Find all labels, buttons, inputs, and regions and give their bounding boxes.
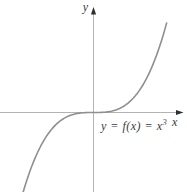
equation-text: y = f(x) = x bbox=[101, 119, 163, 133]
cubic-curve bbox=[23, 23, 166, 192]
equation-exponent: 3 bbox=[163, 117, 168, 127]
x-axis-arrow-icon bbox=[176, 110, 184, 115]
plot-canvas bbox=[0, 0, 187, 192]
y-axis-arrow-icon bbox=[91, 7, 96, 15]
equation-label: y = f(x) = x3 bbox=[101, 120, 167, 133]
x-axis-label: x bbox=[172, 116, 177, 129]
cubic-function-figure: y x y = f(x) = x3 bbox=[0, 0, 187, 192]
y-axis-label: y bbox=[78, 1, 88, 14]
